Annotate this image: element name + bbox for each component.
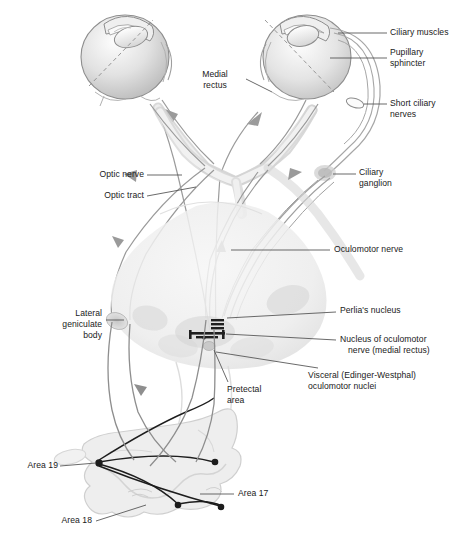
pretectal-area-node [203, 342, 215, 351]
diagram-canvas: Ciliary muscles Pupillary sphincter Shor… [0, 0, 476, 540]
brainstem-midbrain [111, 202, 327, 432]
ciliary-ganglion-node [314, 165, 336, 181]
label-pretectal-area-line2: area [227, 395, 244, 405]
label-optic-tract: Optic tract [20, 190, 144, 200]
label-medial-rectus-line2: rectus [186, 80, 244, 90]
short-ciliary-nerves-node [345, 96, 365, 110]
label-area-17: Area 17 [238, 488, 268, 498]
label-nucleus-oculomotor-line2: nerve (medial rectus) [348, 345, 430, 355]
label-nucleus-oculomotor-line1: Nucleus of oculomotor [340, 334, 427, 344]
perlia-nucleus-bar [189, 332, 225, 335]
label-lateral-geniculate-line2: geniculate [18, 319, 102, 329]
label-pupillary-sphincter-line1: Pupillary [390, 47, 423, 57]
label-pretectal-area-line1: Pretectal [227, 384, 261, 394]
left-eyeball [81, 15, 172, 106]
label-ciliary-muscles: Ciliary muscles [390, 27, 449, 37]
label-area-19: Area 19 [4, 460, 58, 470]
label-perlias-nucleus: Perlia's nucleus [340, 305, 401, 315]
label-area-18: Area 18 [34, 515, 92, 525]
label-optic-nerve: Optic nerve [20, 169, 144, 179]
label-oculomotor-nerve: Oculomotor nerve [334, 244, 403, 254]
label-ciliary-ganglion-line1: Ciliary [359, 167, 383, 177]
label-short-ciliary-nerves-line2: nerves [390, 109, 416, 119]
label-ciliary-ganglion-line2: ganglion [359, 178, 392, 188]
label-lateral-geniculate-line3: body [18, 330, 102, 340]
label-visceral-ew-nuclei-line1: Visceral (Edinger-Westphal) [308, 370, 416, 380]
label-medial-rectus-line1: Medial [186, 69, 244, 79]
label-lateral-geniculate-line1: Lateral [18, 308, 102, 318]
label-visceral-ew-nuclei-line2: oculomotor nuclei [308, 381, 376, 391]
label-pupillary-sphincter-line2: sphincter [390, 58, 425, 68]
label-short-ciliary-nerves-line1: Short ciliary [390, 98, 436, 108]
